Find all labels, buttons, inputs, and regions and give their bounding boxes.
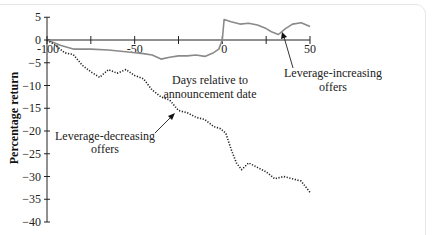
annotation-decreasing-line1: Leverage-decreasing [55, 129, 155, 143]
annotation-increasing-line1: Leverage-increasing [284, 66, 382, 80]
x-axis-title-line2: announcement date [164, 87, 257, 101]
series-group [47, 20, 310, 193]
y-tick-label: −30 [22, 170, 41, 184]
arrow-increasing [281, 32, 293, 68]
axes: 50−5−10−15−20−25−30−35−40-100-50050 [22, 10, 316, 229]
y-tick-label: −10 [22, 79, 41, 93]
line-chart: 50−5−10−15−20−25−30−35−40-100-50050 Perc… [0, 0, 432, 235]
annotation-increasing-line2: offers [319, 80, 347, 94]
y-tick-label: −5 [28, 56, 41, 70]
y-tick-label: −35 [22, 192, 41, 206]
y-tick-label: −20 [22, 124, 41, 138]
annotation-decreasing-line2: offers [91, 142, 119, 156]
y-tick-label: −25 [22, 147, 41, 161]
x-tick-label: 50 [304, 42, 316, 56]
y-tick-label: −15 [22, 101, 41, 115]
y-tick-label: −40 [22, 215, 41, 229]
arrow-decreasing [155, 113, 175, 133]
series-leverage-decreasing [47, 40, 310, 192]
x-tick-label: 0 [221, 42, 227, 56]
y-tick-label: 5 [35, 10, 41, 24]
x-axis-title-line1: Days relative to [172, 73, 248, 87]
y-axis-label: Percentage return [7, 71, 21, 164]
